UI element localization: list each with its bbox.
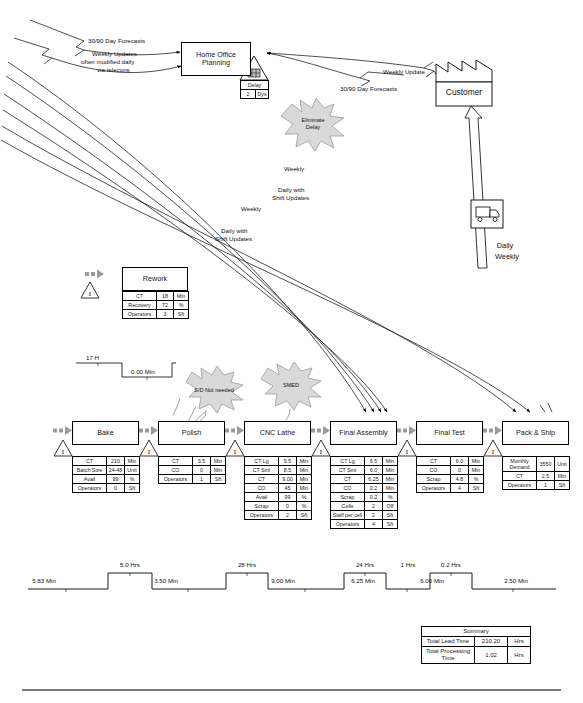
rework-timeline [76,363,176,380]
polish-unit-2: Sft [211,475,226,484]
schedule-line-pack-d [548,403,552,412]
table-row: CO45Min [245,484,312,493]
rework-lead-time-label: 17 H [86,354,99,362]
table-row: CT210Min [73,457,140,466]
final-test-key-1: CO [417,466,451,475]
cnc-lathe-unit-4: % [297,493,312,502]
bake-unit-1: Unit [125,466,140,475]
rework-value-1: 72 [157,301,174,310]
bake-unit-2: % [125,475,140,484]
table-row: Staff per cell2Sft [331,511,398,520]
bake-key-0: CT [73,457,107,466]
process-time-label-1: 3.50 Min [154,577,178,585]
table-row: Operators4Sft [417,484,484,493]
label-shipping-weekly: Weekly [495,253,519,261]
table-row: CO0Min [417,466,484,475]
bake-key-2: Avail [73,475,107,484]
table-row: Operators1Sft [159,475,226,484]
final-test-unit-2: % [469,475,484,484]
table-row: Monthly Demand3550Unit [503,457,570,472]
label-forecast-top: 30/90 Day Forecasts [88,37,145,45]
process-box-final-test[interactable]: Final Test [416,421,483,445]
pack-and-ship-key-2: Operators [503,481,537,490]
process-title-pack-and-ship: Pack & Ship [503,422,568,444]
lead-time-label-4: 0.2 Hrs [441,561,461,569]
pack-and-ship-key-0: Monthly Demand [503,457,537,472]
polish-value-1: 0 [193,466,211,475]
summary-unit-0: Hrs [508,637,531,647]
label-weekly-updates-3: via telecons [97,66,130,74]
final-assembly-key-6: Staff per cell [331,511,365,520]
label-schedule-daily-1b: Shift Updates [272,194,309,202]
table-row: Operators4Sft [331,520,398,529]
sd-pointer-3 [188,406,196,422]
table-row: CO0.2Min [331,484,398,493]
push-arrow-into-rework [85,270,104,279]
final-test-value-1: 0 [451,466,469,475]
weekly-update-line [267,53,424,68]
table-row: CT6.25Min [331,475,398,484]
final-assembly-value-2: 6.25 [365,475,383,484]
kaizen-label-eliminate-delay: EliminateDelay [301,117,324,130]
final-assembly-unit-3: Min [383,484,398,493]
final-assembly-unit-1: Min [383,466,398,475]
table-row: CT Lg6.5Min [331,457,398,466]
process-time-label-3: 6.25 Min [351,577,375,585]
summary-value-1: 1.02 [475,647,508,664]
label-schedule-weekly-1: Weekly [284,165,304,173]
polish-key-0: CT [159,457,193,466]
process-box-bake[interactable]: Bake [72,421,139,445]
cnc-lathe-key-5: Scrap [245,502,279,511]
cnc-lathe-key-4: Avail [245,493,279,502]
table-row: Recovery 72 % [123,301,189,310]
push-arrow-bake-polish [139,426,158,435]
weekly-update-lightning [424,62,434,77]
process-box-final-assembly[interactable]: Final Assembly [330,421,397,445]
final-test-unit-3: Sft [469,484,484,493]
lead-time-label-3: 1 Hrs [401,561,416,569]
kaizen-label-smed: SMED [283,382,299,389]
rework-unit-2: Sft [174,310,189,319]
table-row: Operators 3 Sft [123,310,189,319]
kaizen-label-sd-not-needed: S/D Not needed [194,387,234,394]
label-schedule-daily-2a: Daily with [221,227,247,235]
rework-box[interactable]: Rework [122,267,188,291]
table-row: CT9.00Min [245,475,312,484]
home-office-planning-box[interactable]: Home OfficePlanning [181,42,251,76]
table-row: CT6.0Min [417,457,484,466]
smed-pointer-a [286,409,290,420]
label-schedule-daily-2b: Shift Updates [215,235,252,243]
final-assembly-unit-6: Sft [383,511,398,520]
lead-time-label-1: 28 Hrs [238,561,256,569]
label-schedule-weekly-2: Weekly [241,205,261,213]
pack-and-ship-value-0: 3550 [537,457,555,472]
table-row: Scrap0% [245,502,312,511]
process-box-cnc-lathe[interactable]: CNC Lathe [244,421,311,445]
pack-and-ship-unit-1: Min [555,472,570,481]
final-test-value-0: 6.0 [451,457,469,466]
final-test-unit-0: Min [469,457,484,466]
process-box-polish[interactable]: Polish [158,421,225,445]
customer-label: Customer [446,89,482,97]
polish-unit-0: Min [211,457,226,466]
process-title-final-test: Final Test [417,422,482,444]
cnc-lathe-value-6: 2 [279,511,297,520]
pack-and-ship-unit-2: Sft [555,481,570,490]
cnc-lathe-key-0: CT Lg [245,457,279,466]
final-assembly-unit-4: % [383,493,398,502]
final-assembly-key-1: CT Sml [331,466,365,475]
home-office-planning-label: Home OfficePlanning [182,43,250,75]
table-row: CT Sml8.5Min [245,466,312,475]
cnc-lathe-key-2: CT [245,475,279,484]
summary-header-row: Summary [422,627,531,637]
rework-unit-1: % [174,301,189,310]
rework-process-time-label: 0.00 Min [131,368,155,376]
cnc-lathe-unit-6: Sft [297,511,312,520]
final-assembly-key-7: Operators [331,520,365,529]
table-row: CT3.5Min [159,457,226,466]
pack-and-ship-value-2: 1 [537,481,555,490]
cnc-lathe-unit-3: Min [297,484,312,493]
push-arrow-polish-cnc [225,426,244,435]
process-box-pack-and-ship[interactable]: Pack & Ship [502,421,569,445]
label-forecast-customer: 30/90 Day Forecasts [340,85,397,93]
